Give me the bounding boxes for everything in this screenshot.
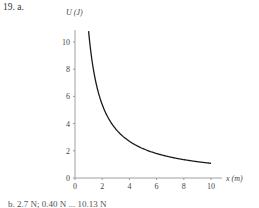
y-tick-label: 8 — [66, 65, 70, 74]
x-axis-label: x (m) — [225, 174, 243, 183]
y-ticks: 0246810 — [62, 38, 75, 183]
x-tick-label: 4 — [127, 182, 131, 191]
x-ticks: 0246810 — [73, 178, 215, 191]
answer-text-partial: b. 2.7 N; 0.40 N ... 10.13 N — [8, 199, 107, 208]
potential-energy-chart: 0246810 0246810 U (J) x (m) — [0, 0, 259, 208]
y-tick-label: 10 — [62, 38, 70, 47]
x-tick-label: 6 — [155, 182, 159, 191]
x-tick-label: 8 — [182, 182, 186, 191]
x-tick-label: 10 — [207, 182, 215, 191]
y-tick-label: 6 — [66, 92, 70, 101]
energy-curve — [89, 31, 211, 163]
y-axis-label: U (J) — [66, 8, 83, 17]
x-tick-label: 2 — [100, 182, 104, 191]
y-tick-label: 0 — [66, 174, 70, 183]
y-tick-label: 4 — [66, 120, 70, 129]
x-tick-label: 0 — [73, 182, 77, 191]
y-tick-label: 2 — [66, 147, 70, 156]
